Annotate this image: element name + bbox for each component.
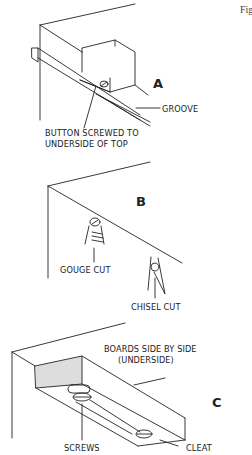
button-label-line1: BUTTON SCREWED TO — [45, 128, 139, 138]
screws-label: SCREWS — [64, 443, 100, 453]
boards-label-line2: (UNDERSIDE) — [118, 355, 174, 365]
panel-a-letter: A — [153, 76, 163, 91]
groove-label: GROOVE — [162, 104, 198, 114]
panel-b-letter: B — [136, 194, 146, 209]
boards-label-line1: BOARDS SIDE BY SIDE — [104, 344, 197, 354]
chisel-cut-label: CHISEL CUT — [131, 302, 181, 312]
cleat-label: CLEAT — [186, 443, 212, 453]
figure-drawing — [0, 0, 252, 455]
gouge-cut-label: GOUGE CUT — [60, 265, 111, 275]
panel-c-drawing — [12, 323, 185, 446]
button-label-line2: UNDERSIDE OF TOP — [45, 139, 128, 149]
panel-b-drawing — [48, 162, 182, 298]
figure-caption: Fig — [240, 4, 252, 15]
panel-c-letter: C — [212, 395, 222, 410]
panel-a-drawing — [32, 4, 160, 128]
